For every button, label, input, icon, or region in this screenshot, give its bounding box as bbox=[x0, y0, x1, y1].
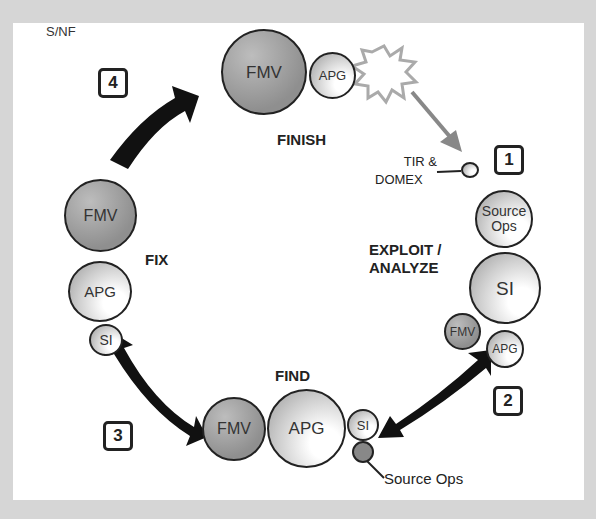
node-label: APG bbox=[84, 284, 116, 299]
stage-fix-label: FIX bbox=[145, 251, 168, 269]
node-label: SI bbox=[357, 419, 369, 432]
step-4-box: 4 bbox=[98, 68, 128, 98]
find-node-apg: APG bbox=[267, 389, 346, 468]
find-node-source-ops bbox=[352, 441, 374, 463]
fix-node-fmv: FMV bbox=[64, 179, 137, 252]
node-label: APG bbox=[289, 420, 325, 437]
stage-analyze-label-line2: ANALYZE bbox=[369, 259, 438, 277]
tir-domex-label-line2: DOMEX bbox=[375, 172, 423, 187]
find-node-si: SI bbox=[347, 409, 379, 441]
exploit-node-si: SI bbox=[469, 252, 541, 324]
arrow-fix-to-finish-icon bbox=[110, 86, 199, 169]
find-node-fmv: FMV bbox=[202, 397, 266, 461]
node-label: FMV bbox=[246, 64, 282, 81]
finish-node-apg: APG bbox=[309, 52, 356, 99]
step-2-box: 2 bbox=[493, 386, 523, 416]
step-1-box: 1 bbox=[494, 145, 524, 175]
tir-domex-label-line1: TIR & bbox=[377, 154, 437, 169]
source-ops-callout-label: Source Ops bbox=[384, 471, 463, 486]
finish-node-fmv: FMV bbox=[221, 29, 307, 115]
node-label: APG bbox=[492, 343, 517, 355]
classification-marking: S/NF bbox=[46, 24, 76, 39]
arrow-finish-to-exploit-icon bbox=[412, 92, 462, 152]
node-label: FMV bbox=[450, 326, 475, 338]
node-label: FMV bbox=[84, 208, 118, 224]
explosion-icon bbox=[352, 46, 416, 102]
exploit-node-fmv: FMV bbox=[444, 313, 481, 350]
exploit-node-apg: APG bbox=[486, 330, 524, 368]
node-label: Source Ops bbox=[479, 204, 529, 234]
stage-find-label: FIND bbox=[275, 367, 310, 385]
stage-finish-label: FINISH bbox=[277, 131, 326, 149]
node-label: SI bbox=[496, 279, 514, 298]
node-label: FMV bbox=[217, 421, 251, 437]
fix-node-apg: APG bbox=[68, 261, 132, 322]
exploit-node-source-ops: Source Ops bbox=[475, 190, 533, 248]
node-label: APG bbox=[319, 69, 346, 82]
fix-node-si: SI bbox=[89, 324, 123, 356]
arrow-exploit-find-icon bbox=[378, 350, 491, 438]
step-3-box: 3 bbox=[103, 421, 133, 451]
node-label: SI bbox=[99, 333, 112, 347]
stage-exploit-label-line1: EXPLOIT / bbox=[369, 241, 442, 259]
tir-domex-node bbox=[461, 162, 479, 178]
